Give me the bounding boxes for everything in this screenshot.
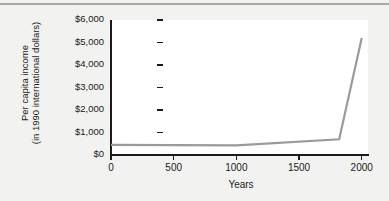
y-tick-mark xyxy=(157,132,163,134)
y-tick-label: $1,000 xyxy=(58,126,104,137)
y-tick-label: $0 xyxy=(58,148,104,159)
y-tick-label: $3,000 xyxy=(58,81,104,92)
x-tick-mark xyxy=(110,154,112,160)
x-tick-label: 1000 xyxy=(216,162,256,173)
plot-area xyxy=(111,20,368,155)
y-tick-mark xyxy=(157,64,163,66)
x-tick-mark xyxy=(173,154,175,160)
y-tick-label: $5,000 xyxy=(58,36,104,47)
y-tick-mark xyxy=(157,109,163,111)
x-tick-label: 500 xyxy=(154,162,194,173)
x-tick-mark xyxy=(298,154,300,160)
y-tick-label: $6,000 xyxy=(58,13,104,24)
y-tick-label: $4,000 xyxy=(58,58,104,69)
y-tick-label: $2,000 xyxy=(58,103,104,114)
y-tick-mark xyxy=(157,87,163,89)
x-tick-label: 2000 xyxy=(342,162,382,173)
y-axis-title-line1: Per capita income xyxy=(19,45,30,121)
y-axis-line xyxy=(110,20,112,157)
x-axis-line xyxy=(110,154,369,156)
x-axis-title: Years xyxy=(111,179,371,190)
x-tick-mark xyxy=(236,154,238,160)
chart-figure: Per capita income (in 1990 international… xyxy=(0,0,389,201)
x-tick-mark xyxy=(361,154,363,160)
y-axis-title-line2: (in 1990 international dollars) xyxy=(30,22,41,145)
y-tick-mark xyxy=(157,19,163,21)
y-tick-mark xyxy=(157,154,163,156)
x-tick-label: 1500 xyxy=(279,162,319,173)
y-tick-mark xyxy=(157,42,163,44)
y-axis-title: Per capita income (in 1990 international… xyxy=(13,7,47,159)
x-tick-label: 0 xyxy=(91,162,131,173)
